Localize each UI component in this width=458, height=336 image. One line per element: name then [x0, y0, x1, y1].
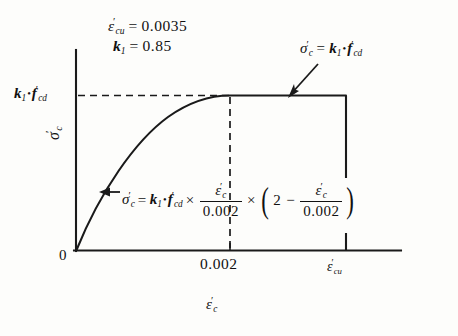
equals-sign: = — [129, 37, 138, 54]
sigma-subscript: c — [131, 199, 135, 209]
times-operator-2: × — [247, 193, 256, 208]
plateau-equation-label: σ′c = k1•f′cd — [300, 40, 362, 59]
fraction-denominator: 0.002 — [200, 202, 242, 219]
x-axis-tick-ultimate-strain: ε′cu — [327, 258, 342, 275]
epsilon-subscript: cu — [334, 266, 342, 276]
equals-sign: = — [317, 40, 326, 56]
k1-constant: k1 = 0.85 — [113, 38, 187, 55]
f-subscript: cd — [174, 199, 183, 209]
constants-annotation: ε′cu = 0.0035 k1 = 0.85 — [108, 16, 187, 59]
k1-subscript: 1 — [121, 45, 126, 56]
close-parenthesis: ) — [347, 182, 355, 219]
epsilon-cu-subscript: cu — [115, 25, 124, 36]
epsilon-subscript: c — [213, 304, 217, 314]
strain-ratio-fraction-1: ε′c 0.002 — [200, 181, 242, 219]
equation-annotation-arrow-head — [99, 188, 110, 197]
epsilon-subscript: c — [323, 190, 327, 200]
y-axis-title: σ′c — [44, 126, 64, 140]
stress-strain-curve — [77, 96, 347, 251]
open-parenthesis: ( — [261, 182, 269, 219]
prime-mark: ′ — [43, 131, 55, 133]
sigma-subscript: c — [309, 48, 313, 58]
f-subscript: cd — [38, 93, 47, 103]
equation-left-side: σ′c — [122, 191, 135, 210]
ultimate-strain-constant: ε′cu = 0.0035 — [108, 16, 187, 35]
origin-label: 0 — [59, 248, 67, 263]
ultimate-strain-value: 0.0035 — [142, 17, 188, 34]
equals-sign: = — [128, 17, 137, 34]
multiplication-dot: • — [342, 44, 346, 55]
k-symbol: k — [14, 85, 22, 101]
epsilon-subscript: c — [222, 190, 226, 200]
k1-fcd-term: k1•f′cd — [150, 191, 183, 210]
x-axis-title: ε′c — [206, 296, 217, 315]
multiplication-dot: • — [163, 195, 167, 206]
y-axis-tick-label-peak: k1•f′cd — [14, 85, 47, 104]
sigma-subscript: c — [53, 126, 64, 130]
stress-strain-figure — [0, 0, 458, 336]
x-axis-tick-0002: 0.002 — [200, 256, 237, 272]
strain-ratio-fraction-2: ε′c 0.002 — [300, 181, 342, 219]
k-subscript: 1 — [337, 48, 342, 58]
fraction-numerator: ε′c — [300, 181, 342, 202]
fraction-denominator: 0.002 — [300, 202, 342, 219]
constant-two: 2 — [273, 193, 281, 208]
f-subscript: cd — [353, 48, 362, 58]
equals-sign: = — [138, 193, 147, 208]
k1-value: 0.85 — [143, 37, 172, 54]
times-operator-1: × — [186, 193, 195, 208]
plateau-annotation-arrow-shaft — [291, 64, 318, 94]
k-subscript: 1 — [157, 199, 162, 209]
multiplication-dot: • — [27, 89, 31, 100]
k1-symbol: k — [113, 37, 121, 54]
main-equation-annotation: σ′c = k1•f′cd × ε′c 0.002 × ( 2 − ε′c 0.… — [122, 181, 357, 219]
sigma-symbol: σ — [45, 132, 62, 140]
k-subscript: 1 — [22, 93, 27, 103]
minus-operator: − — [286, 193, 295, 208]
k-symbol: k — [329, 40, 337, 56]
fraction-numerator: ε′c — [200, 181, 242, 202]
equation-line: σ′c = k1•f′cd × ε′c 0.002 × ( 2 − ε′c 0.… — [122, 181, 357, 219]
